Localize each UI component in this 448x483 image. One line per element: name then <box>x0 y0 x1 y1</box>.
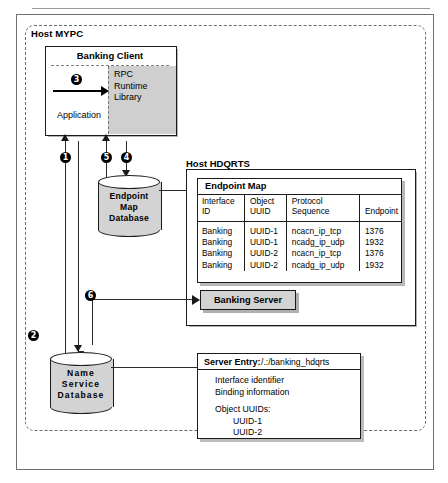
cell-object-uuid: UUID-2 <box>244 259 286 270</box>
cell-object-uuid: UUID-1 <box>244 221 286 236</box>
server-entry-body: Interface identifier Binding information… <box>215 375 289 439</box>
cell-interface-id: Banking <box>197 221 244 236</box>
rpc-runtime-library-label: RPC Runtime Library <box>114 69 148 104</box>
table-header-row: Interface ID Object UUID Protocol Sequen… <box>197 195 402 221</box>
col-interface-id-line2: ID <box>202 207 240 217</box>
col-endpoint: Endpoint <box>359 195 402 221</box>
endpoint-map-table-wrap: Interface ID Object UUID Protocol Sequen… <box>197 195 402 283</box>
cylinder-top <box>50 352 112 366</box>
nsdb-line3: Database <box>50 390 112 401</box>
server-entry-line2: Binding information <box>215 387 289 399</box>
step6-arrow-head <box>192 295 200 305</box>
step-badge-3: 3 <box>71 74 82 85</box>
server-entry-line3: Object UUIDs: <box>215 404 289 416</box>
server-entry-key: Server Entry: <box>204 357 261 367</box>
step-badge-4: 4 <box>121 152 132 163</box>
cell-endpoint: 1932 <box>359 236 402 247</box>
rpc-label-line3: Library <box>114 92 148 104</box>
cell-endpoint: 1376 <box>359 248 402 259</box>
endpoint-map-db-connector <box>159 190 187 191</box>
table-row: BankingUUID-2ncacn_ip_tcp1376 <box>197 248 402 259</box>
step-badge-6: 6 <box>85 290 96 301</box>
table-row: BankingUUID-1ncadg_ip_udp1932 <box>197 236 402 247</box>
cell-interface-id: Banking <box>197 248 244 259</box>
banking-server-box: Banking Server <box>200 290 296 310</box>
cell-protocol-sequence: ncadg_ip_udp <box>286 236 359 247</box>
name-service-database-cylinder: Name Service Database <box>50 352 112 414</box>
page-header-strip <box>32 0 430 9</box>
step6-line-corner <box>92 299 93 311</box>
step-badge-1: 1 <box>60 152 71 163</box>
table-head: Interface ID Object UUID Protocol Sequen… <box>197 195 402 221</box>
step3-arrow-head <box>101 86 109 96</box>
rpc-label-line1: RPC <box>114 69 148 81</box>
step6-line-vertical <box>92 310 93 345</box>
server-entry-path: /.:/banking_hdqrts <box>261 357 329 367</box>
table-row: BankingUUID-1ncacn_ip_tcp1376 <box>197 221 402 236</box>
server-entry-header: Server Entry: /.:/banking_hdqrts <box>197 353 361 370</box>
step6-line-horizontal <box>92 299 193 300</box>
step-badge-5: 5 <box>101 152 112 163</box>
name-service-database-label: Name Service Database <box>50 368 112 401</box>
nsdb-line2: Service <box>50 379 112 390</box>
step1-line <box>65 141 66 360</box>
cylinder-top <box>98 175 160 189</box>
emdb-line1: Endpoint <box>98 191 160 202</box>
col-interface-id: Interface ID <box>197 195 244 221</box>
cell-endpoint: 1932 <box>359 259 402 270</box>
step3-arrow-shaft <box>53 90 105 92</box>
figure-canvas: Host MYPC Banking Client RPC Runtime Lib… <box>0 0 448 483</box>
col-object-uuid: Object UUID <box>244 195 286 221</box>
endpoint-map-table: Interface ID Object UUID Protocol Sequen… <box>197 195 402 271</box>
banking-client-title: Banking Client <box>45 50 175 61</box>
col-protocol-sequence: Protocol Sequence <box>286 195 359 221</box>
endpoint-map-database-cylinder: Endpoint Map Database <box>98 175 160 237</box>
application-label: Application <box>51 110 107 120</box>
cell-object-uuid: UUID-1 <box>244 236 286 247</box>
cell-interface-id: Banking <box>197 236 244 247</box>
cell-object-uuid: UUID-2 <box>244 248 286 259</box>
table-body: BankingUUID-1ncacn_ip_tcp1376BankingUUID… <box>197 221 402 270</box>
header-rule <box>32 8 430 9</box>
step2-arrow-head <box>74 345 82 352</box>
emdb-line2: Map <box>98 202 160 213</box>
table-row: BankingUUID-2ncadg_ip_udp1932 <box>197 259 402 270</box>
cell-protocol-sequence: ncacn_ip_tcp <box>286 221 359 236</box>
endpoint-map-title: Endpoint Map <box>205 181 266 191</box>
step2-line <box>78 141 79 352</box>
rpc-label-line2: Runtime <box>114 81 148 93</box>
cell-protocol-sequence: ncacn_ip_tcp <box>286 248 359 259</box>
host-mypc-label: Host MYPC <box>31 28 83 39</box>
server-entry-uuid1: UUID-1 <box>215 416 289 428</box>
col-object-uuid-line2: UUID <box>250 207 282 217</box>
step-badge-2: 2 <box>28 330 39 341</box>
server-entry-line1: Interface identifier <box>215 375 289 387</box>
server-entry-uuid2: UUID-2 <box>215 427 289 439</box>
endpoint-map-database-label: Endpoint Map Database <box>98 191 160 224</box>
name-service-db-connector <box>111 367 198 368</box>
banking-server-label: Banking Server <box>201 295 295 305</box>
col-protocol-sequence-line2: Sequence <box>292 207 355 217</box>
cell-endpoint: 1376 <box>359 221 402 236</box>
step1-arrow-head <box>61 134 69 141</box>
emdb-line3: Database <box>98 213 160 224</box>
step5-arrow-head <box>102 134 110 141</box>
cell-protocol-sequence: ncadg_ip_udp <box>286 259 359 270</box>
host-hdqrts-label: Host HDQRTS <box>186 158 250 169</box>
cell-interface-id: Banking <box>197 259 244 270</box>
nsdb-line1: Name <box>50 368 112 379</box>
endpoint-map-title-bar: Endpoint Map <box>197 178 402 195</box>
